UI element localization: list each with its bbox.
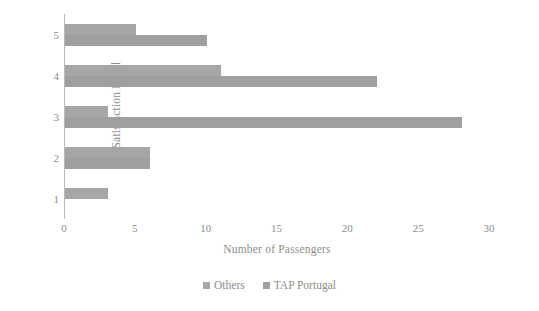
legend-swatch-icon: [263, 282, 270, 289]
bar-group-level-5: 5: [65, 24, 489, 46]
bar-group-level-4: 4: [65, 65, 489, 87]
y-tick-label-5: 5: [54, 29, 60, 40]
x-axis-tick-labels: 051015202530: [64, 222, 489, 238]
x-tick-label-15: 15: [271, 222, 282, 235]
y-tick-label-1: 1: [54, 193, 60, 204]
bar-tap-portugal-level-4: [65, 76, 377, 87]
x-tick-label-20: 20: [342, 222, 353, 235]
bar-tap-portugal-level-3: [65, 117, 462, 128]
legend-label: TAP Portugal: [274, 279, 336, 291]
bar-others-level-3: [65, 106, 108, 117]
chart-legend: OthersTAP Portugal: [0, 279, 539, 291]
bar-tap-portugal-level-2: [65, 158, 150, 169]
bar-others-level-5: [65, 24, 136, 35]
bar-tap-portugal-level-5: [65, 35, 207, 46]
x-tick-label-25: 25: [413, 222, 424, 235]
legend-label: Others: [214, 279, 245, 291]
y-tick-label-4: 4: [54, 70, 60, 81]
bar-chart: Satisfaction Level 12345 051015202530 Nu…: [0, 0, 539, 311]
y-tick-label-2: 2: [54, 152, 60, 163]
bar-group-level-1: 1: [65, 188, 489, 210]
bar-others-level-1: [65, 188, 108, 199]
x-tick-label-30: 30: [484, 222, 495, 235]
plot-area: 12345: [64, 14, 489, 219]
x-tick-label-5: 5: [132, 222, 138, 235]
x-tick-label-10: 10: [200, 222, 211, 235]
legend-swatch-icon: [203, 282, 210, 289]
bar-others-level-4: [65, 65, 221, 76]
x-axis-title: Number of Passengers: [64, 243, 490, 255]
bar-others-level-2: [65, 147, 150, 158]
x-tick-label-0: 0: [61, 222, 67, 235]
bar-group-level-3: 3: [65, 106, 489, 128]
legend-item-tap-portugal[interactable]: TAP Portugal: [263, 279, 336, 291]
legend-item-others[interactable]: Others: [203, 279, 245, 291]
bar-group-level-2: 2: [65, 147, 489, 169]
y-tick-label-3: 3: [54, 111, 60, 122]
